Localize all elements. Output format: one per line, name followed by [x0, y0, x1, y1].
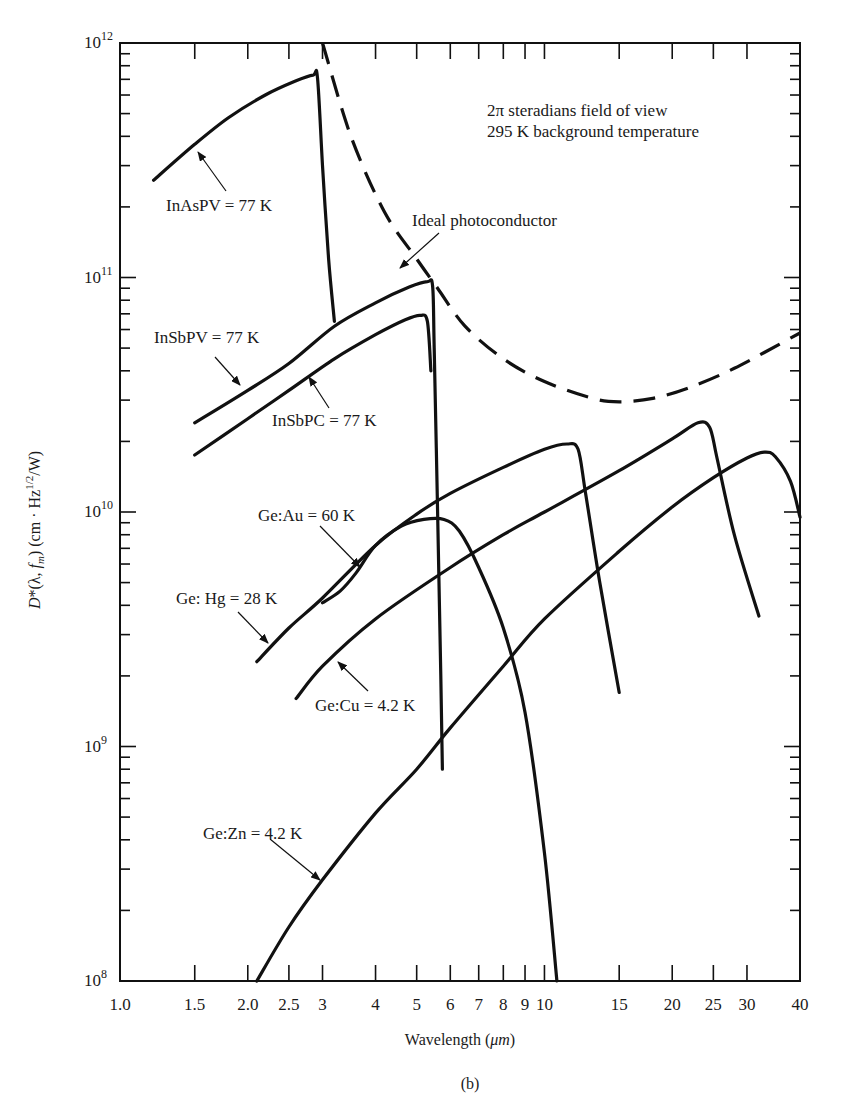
y-tick-label: 108: [84, 967, 107, 990]
x-tick-label: 2.5: [278, 995, 299, 1014]
y-tick-label: 1010: [84, 498, 113, 521]
label-insb-pc: InSbPC = 77 K: [272, 411, 377, 430]
ge-zn-pointer: [270, 839, 320, 880]
x-tick-label: 2.0: [237, 995, 258, 1014]
background-temp-annotation: 295 K background temperature: [487, 122, 699, 141]
x-tick-label: 3: [318, 995, 327, 1014]
y-tick-label: 1012: [84, 29, 113, 52]
inas-pv-pointer: [198, 152, 226, 191]
x-tick-label: 30: [738, 995, 755, 1014]
conditions-annotation: 2π steradians field of view 295 K backgr…: [487, 101, 699, 141]
fov-annotation: 2π steradians field of view: [487, 101, 668, 120]
y-tick-label: 1011: [84, 264, 113, 287]
label-ge-zn: Ge:Zn = 4.2 K: [203, 824, 303, 843]
x-tick-label: 25: [705, 995, 722, 1014]
x-tick-label: 1.0: [109, 995, 130, 1014]
ge-au-pointer: [320, 526, 360, 567]
x-axis-title: Wavelength (μm): [405, 1031, 515, 1049]
insb-pc-pointer: [309, 377, 329, 408]
label-insb-pv: InSbPV = 77 K: [154, 328, 260, 347]
y-axis-title: D*(λ, fm) (cm · Hz1/2/W): [23, 451, 46, 610]
x-axis-tick-labels: 1.01.52.02.53456789101520253040: [109, 995, 808, 1014]
curve-ge-zn-4-2-k: [257, 452, 800, 981]
label-ideal-photoconductor: Ideal photoconductor: [412, 211, 557, 230]
label-inas-pv: InAsPV = 77 K: [166, 196, 273, 215]
x-tick-label: 5: [412, 995, 421, 1014]
ge-hg-pointer: [238, 612, 268, 643]
x-tick-label: 15: [611, 995, 628, 1014]
x-tick-label: 20: [664, 995, 681, 1014]
figure-caption: (b): [461, 1075, 480, 1093]
curve-labels: InAsPV = 77 K Ideal photoconductor InSbP…: [154, 196, 557, 843]
x-tick-label: 4: [371, 995, 380, 1014]
label-ge-cu: Ge:Cu = 4.2 K: [315, 696, 416, 715]
x-tick-label: 6: [446, 995, 455, 1014]
y-axis-tick-labels: 108109101010111012: [84, 29, 113, 990]
x-tick-label: 1.5: [184, 995, 205, 1014]
ge-cu-pointer: [338, 662, 368, 691]
x-tick-label: 8: [499, 995, 508, 1014]
x-tick-label: 7: [474, 995, 483, 1014]
y-tick-label: 109: [84, 733, 107, 756]
label-ge-hg: Ge: Hg = 28 K: [176, 589, 278, 608]
x-tick-label: 40: [792, 995, 809, 1014]
label-ge-au: Ge:Au = 60 K: [258, 506, 356, 525]
curve-ideal-photoconductor: [323, 43, 801, 402]
x-tick-label: 9: [521, 995, 530, 1014]
insb-pv-pointer: [215, 357, 240, 385]
x-tick-label: 10: [536, 995, 553, 1014]
detectivity-chart: 108109101010111012 1.01.52.02.5345678910…: [0, 0, 847, 1117]
